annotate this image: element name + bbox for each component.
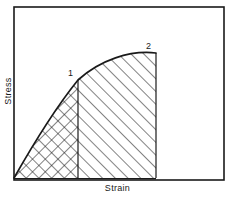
point-1-label: 1	[68, 68, 73, 78]
stress-strain-plot	[0, 0, 235, 200]
point-2-label: 2	[146, 41, 151, 51]
plastic-region-hatch	[74, 45, 164, 185]
x-axis-label: Strain	[0, 183, 235, 193]
stress-strain-figure: Strain Stress 1 2	[0, 0, 235, 200]
y-axis-label: Stress	[3, 66, 13, 116]
